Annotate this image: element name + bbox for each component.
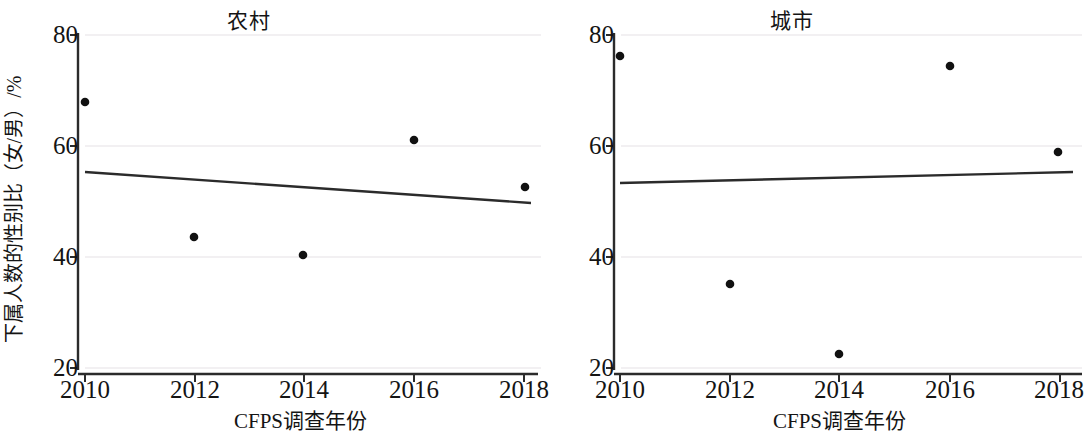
x-tick-urban-2016: 2016 xyxy=(905,377,995,403)
data-point xyxy=(835,350,844,359)
x-tick-rural-2012: 2012 xyxy=(150,377,240,403)
data-point xyxy=(521,183,530,192)
data-point xyxy=(410,136,419,145)
x-tick-rural-2014: 2014 xyxy=(259,377,349,403)
x-axis-title-rural: CFPS调查年份 xyxy=(30,404,571,434)
y-axis-ticks-urban xyxy=(606,35,614,368)
x-axis-title-urban: CFPS调查年份 xyxy=(569,404,1088,434)
plot-area-urban xyxy=(541,0,1082,435)
data-point xyxy=(299,251,308,260)
x-tick-urban-2010: 2010 xyxy=(575,377,665,403)
x-tick-rural-2010: 2010 xyxy=(40,377,130,403)
plot-area-rural xyxy=(0,0,541,435)
data-point xyxy=(190,233,199,242)
gridlines-urban xyxy=(621,35,1082,368)
x-tick-urban-2012: 2012 xyxy=(685,377,775,403)
data-point xyxy=(726,280,735,289)
data-point xyxy=(81,98,90,107)
x-tick-urban-2014: 2014 xyxy=(794,377,884,403)
trend-line-rural xyxy=(85,172,531,203)
data-points-urban xyxy=(616,52,1063,359)
x-tick-urban-2018: 2018 xyxy=(1014,377,1088,403)
trend-line-urban xyxy=(620,172,1073,183)
gridlines-rural xyxy=(85,35,541,368)
data-point xyxy=(946,62,955,71)
chart-panel-urban: 城市 xyxy=(541,0,1082,435)
data-point xyxy=(616,52,625,61)
data-point xyxy=(1054,148,1063,157)
data-points-rural xyxy=(81,98,530,260)
x-tick-rural-2016: 2016 xyxy=(369,377,459,403)
chart-panel-rural: 农村 xyxy=(0,0,541,435)
y-axis-title: 下属人数的性别比（女/男）/% xyxy=(0,30,27,390)
